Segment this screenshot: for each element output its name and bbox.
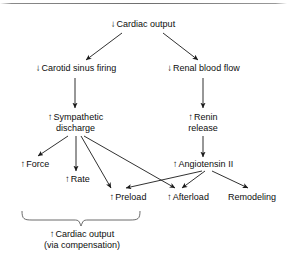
up-arrow-icon: ↑ [173,158,178,169]
node-label-line2: release [168,123,238,134]
up-arrow-icon: ↑ [50,228,55,239]
node-label: Afterload [173,192,209,202]
flowchart-diagram: ↓Cardiac output ↓Carotid sinus firing ↓R… [0,0,287,263]
node-carotid-sinus-firing: ↓Carotid sinus firing [16,63,136,74]
node-label-line2: discharge [33,123,118,134]
node-label: Cardiac output [56,229,115,239]
node-label: Cardiac output [117,19,176,29]
edge-cardiacoutput-to-carotid [86,33,122,60]
node-renin-release: ↑Renin release [168,112,238,133]
up-arrow-icon: ↑ [167,191,172,202]
node-remodeling: Remodeling [222,192,282,203]
node-label: Force [26,159,49,169]
node-renal-blood-flow: ↓Renal blood flow [151,63,256,74]
node-preload: ↑Preload [98,192,158,203]
node-cardiac-output-decreased: ↓Cardiac output [98,19,188,30]
node-label: Renal blood flow [173,63,240,73]
edge-angiotensin-to-afterload [182,171,205,188]
node-label: Carotid sinus firing [42,63,117,73]
node-angiotensin-ii: ↑Angiotensin II [158,159,248,170]
down-arrow-icon: ↓ [167,62,172,73]
edge-angiotensin-to-remodeling [212,171,248,188]
node-rate: ↑Rate [55,174,100,185]
node-afterload: ↑Afterload [155,192,221,203]
up-arrow-icon: ↑ [65,173,70,184]
node-label: Preload [115,192,146,202]
down-arrow-icon: ↓ [36,62,41,73]
up-arrow-icon: ↑ [21,158,26,169]
edge-angiotensin-to-preload [126,171,202,188]
node-label: Renin [194,112,218,122]
edge-cardiacoutput-to-renal [163,33,198,60]
down-arrow-icon: ↓ [111,18,116,29]
node-label-line2: (via compensation) [26,240,138,251]
node-label: Remodeling [228,192,276,202]
node-sympathetic-discharge: ↑Sympathetic discharge [33,112,118,133]
node-cardiac-output-compensated: ↑Cardiac output (via compensation) [26,229,138,250]
node-label: Rate [71,174,90,184]
grouping-brace [22,211,140,226]
up-arrow-icon: ↑ [188,111,193,122]
node-label: Angiotensin II [179,159,234,169]
up-arrow-icon: ↑ [110,191,115,202]
node-force: ↑Force [10,159,60,170]
node-label: Sympathetic [54,112,104,122]
edge-sympathetic-to-force [38,136,68,156]
up-arrow-icon: ↑ [48,111,53,122]
